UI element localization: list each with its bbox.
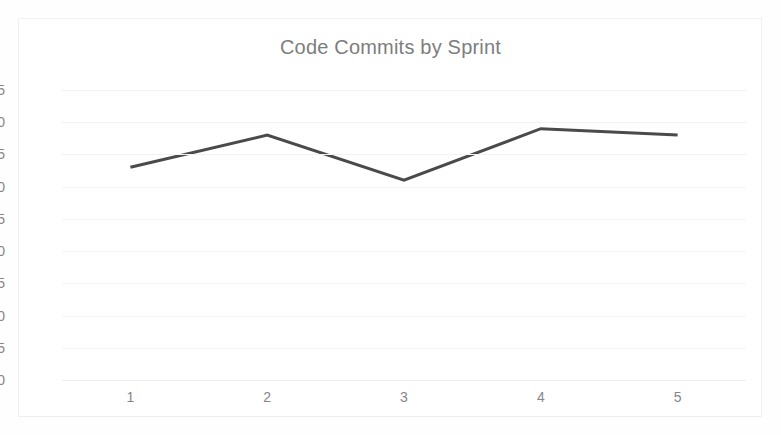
y-axis-tick-label: 0 xyxy=(0,373,5,387)
x-axis-tick-label: 2 xyxy=(237,390,297,404)
x-axis-tick-label: 3 xyxy=(374,390,434,404)
gridline-45 xyxy=(62,90,746,91)
chart-title: Code Commits by Sprint xyxy=(0,36,781,59)
gridline-35 xyxy=(62,154,746,155)
gridline-5 xyxy=(62,348,746,349)
y-axis-tick-label: 15 xyxy=(0,276,5,290)
gridline-30 xyxy=(62,187,746,188)
y-axis-tick-label: 30 xyxy=(0,180,5,194)
plot-area: 45403530252015105012345 xyxy=(62,90,746,380)
x-axis-tick-label: 1 xyxy=(100,390,160,404)
gridline-0 xyxy=(62,380,746,381)
x-axis-tick-label: 4 xyxy=(511,390,571,404)
gridline-20 xyxy=(62,251,746,252)
y-axis-tick-label: 40 xyxy=(0,115,5,129)
x-axis-tick-label: 5 xyxy=(648,390,708,404)
y-axis-tick-label: 20 xyxy=(0,244,5,258)
gridline-15 xyxy=(62,283,746,284)
y-axis-tick-label: 45 xyxy=(0,83,5,97)
y-axis-tick-label: 25 xyxy=(0,212,5,226)
y-axis-tick-label: 35 xyxy=(0,147,5,161)
line-series xyxy=(62,90,746,380)
chart-figure: Code Commits by Sprint 45403530252015105… xyxy=(0,0,781,435)
gridline-10 xyxy=(62,316,746,317)
gridline-40 xyxy=(62,122,746,123)
y-axis-tick-label: 10 xyxy=(0,309,5,323)
y-axis-tick-label: 5 xyxy=(0,341,5,355)
gridline-25 xyxy=(62,219,746,220)
